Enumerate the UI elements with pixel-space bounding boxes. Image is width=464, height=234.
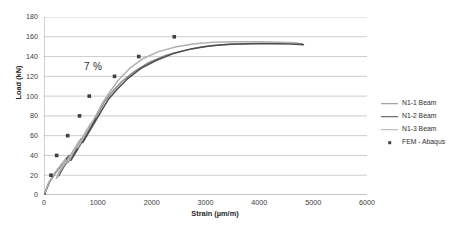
y-axis-tick-label: 0	[8, 191, 38, 198]
x-axis-tick-label: 0	[24, 199, 64, 206]
chart-container: 020406080100120140160180 010002000300040…	[0, 0, 464, 234]
y-axis-tick-label: 60	[8, 132, 38, 139]
fem-data-marker	[113, 75, 117, 79]
x-axis-tick-label: 5000	[293, 199, 333, 206]
y-axis-tick-label: 100	[8, 93, 38, 100]
legend-item-label: N1-1 Beam	[402, 100, 436, 107]
y-axis-tick-label: 120	[8, 73, 38, 80]
chart-legend: N1-1 BeamN1-2 BeamN1-3 BeamFEM - Abaqus	[381, 97, 463, 149]
legend-item[interactable]: N1-3 Beam	[381, 123, 463, 136]
y-axis-title: Load (kN)	[14, 43, 23, 123]
fem-data-marker	[137, 55, 141, 59]
legend-item-label: FEM - Abaqus	[402, 139, 445, 146]
x-axis-tick-label: 4000	[239, 199, 279, 206]
series-line	[44, 44, 303, 195]
legend-item-label: N1-2 Beam	[402, 113, 436, 120]
axis-lines	[44, 17, 367, 195]
plot-area	[44, 17, 367, 195]
fem-data-marker	[172, 35, 176, 39]
y-axis-tick-label: 180	[8, 13, 38, 20]
x-axis-tick-label: 1000	[78, 199, 118, 206]
fem-data-marker	[66, 134, 70, 138]
series-lines	[44, 42, 303, 195]
legend-line-swatch-icon	[381, 125, 398, 135]
y-axis-tick-label: 20	[8, 172, 38, 179]
series-line	[44, 43, 302, 195]
gridlines	[44, 17, 367, 195]
fem-data-marker	[55, 154, 59, 158]
chart-plot-svg	[44, 17, 367, 195]
series-line	[44, 42, 297, 195]
legend-item[interactable]: FEM - Abaqus	[381, 136, 463, 149]
x-axis-tick-label: 3000	[186, 199, 226, 206]
y-axis-tick-label: 140	[8, 53, 38, 60]
y-axis-tick-label: 40	[8, 152, 38, 159]
x-axis-tick-label: 2000	[132, 199, 172, 206]
legend-square-marker-icon	[381, 138, 398, 148]
fem-data-marker	[78, 114, 82, 118]
legend-item-label: N1-3 Beam	[402, 126, 436, 133]
x-axis-tick-label: 6000	[347, 199, 387, 206]
fem-data-marker	[87, 94, 91, 98]
legend-item[interactable]: N1-2 Beam	[381, 110, 463, 123]
legend-line-swatch-icon	[381, 99, 398, 109]
fem-data-marker	[49, 173, 53, 177]
legend-item[interactable]: N1-1 Beam	[381, 97, 463, 110]
y-axis-tick-label: 80	[8, 112, 38, 119]
annotation-seven-percent: 7 %	[84, 61, 102, 72]
legend-line-swatch-icon	[381, 112, 398, 122]
y-axis-tick-label: 160	[8, 33, 38, 40]
x-axis-title: Strain (µm/m)	[145, 209, 285, 218]
